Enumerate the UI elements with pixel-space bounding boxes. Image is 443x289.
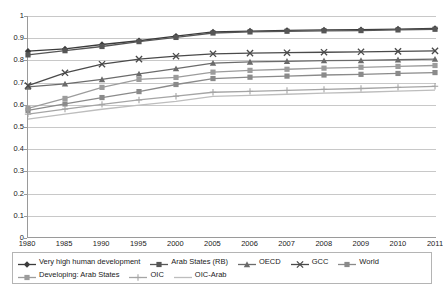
data-point-marker: [247, 75, 252, 80]
data-point-marker: [62, 96, 67, 101]
data-point-marker: [321, 86, 327, 92]
data-point-marker: [284, 67, 289, 72]
legend-item[interactable]: OECD: [237, 256, 281, 267]
x-tick-label: 2011: [427, 240, 443, 248]
data-point-marker: [136, 89, 141, 94]
legend-key-icon: [128, 269, 148, 280]
legend-label: Developing: Arab States: [39, 271, 119, 279]
legend-label: OIC-Arab: [195, 271, 227, 279]
data-point-marker: [395, 84, 401, 90]
data-point-marker: [210, 30, 215, 35]
legend-item[interactable]: OIC-Arab: [173, 269, 227, 280]
data-point-marker: [395, 71, 400, 76]
x-tick-label: 1995: [130, 240, 147, 248]
data-point-marker: [210, 70, 215, 75]
data-point-marker: [62, 48, 67, 53]
data-point-marker: [210, 76, 215, 81]
data-point-marker: [99, 95, 104, 100]
x-tick-label: 2007: [278, 240, 295, 248]
y-tick-label: 0.1: [14, 212, 24, 220]
series-4: [25, 48, 438, 89]
legend-key-icon: [290, 256, 310, 267]
legend-label: Arab States (RB): [171, 258, 228, 266]
legend-label: OECD: [259, 258, 281, 266]
legend-label: OIC: [150, 271, 163, 279]
x-tick-label: 2005: [204, 240, 221, 248]
data-point-marker: [62, 106, 68, 112]
x-tick-label: 2010: [390, 240, 407, 248]
data-point-marker: [247, 68, 252, 73]
x-tick-label: 1980: [19, 240, 36, 248]
data-point-marker: [173, 82, 178, 87]
hdi-line-chart: 10.90.80.70.60.50.40.30.20.10 1980198519…: [0, 0, 443, 289]
data-point-marker: [321, 72, 326, 77]
data-point-marker: [284, 87, 290, 93]
data-point-marker: [432, 70, 437, 75]
data-point-marker: [321, 28, 326, 33]
data-point-marker: [173, 93, 179, 99]
data-point-marker: [358, 28, 363, 33]
legend-item[interactable]: OIC: [128, 269, 163, 280]
data-point-marker: [99, 44, 104, 49]
legend-key-icon: [17, 269, 37, 280]
series-6: [25, 63, 437, 111]
legend-key-icon: [17, 256, 37, 267]
data-point-marker: [210, 89, 216, 95]
data-point-marker: [358, 85, 364, 91]
series-layer: [28, 16, 436, 237]
series-line: [28, 59, 435, 87]
legend-row-2: Developing: Arab StatesOICOIC-Arab: [17, 268, 427, 281]
data-point-marker: [247, 29, 252, 34]
data-point-marker: [136, 97, 142, 103]
legend-item[interactable]: GCC: [290, 256, 329, 267]
legend-label: World: [359, 258, 378, 266]
data-point-marker: [284, 29, 289, 34]
legend-item[interactable]: World: [337, 256, 378, 267]
y-axis: 10.90.80.70.60.50.40.30.20.10: [0, 16, 24, 238]
data-point-marker: [25, 106, 30, 111]
data-point-marker: [136, 77, 141, 82]
x-tick-label: 1985: [56, 240, 73, 248]
legend-label: GCC: [312, 258, 329, 266]
data-point-marker: [173, 75, 178, 80]
data-point-marker: [395, 27, 400, 32]
data-point-marker: [25, 52, 30, 57]
series-1: [25, 25, 438, 54]
legend-item[interactable]: Very high human development: [17, 256, 140, 267]
data-point-marker: [358, 72, 363, 77]
y-tick-label: 0.2: [14, 190, 24, 198]
data-point-marker: [99, 101, 105, 107]
y-tick-label: 0.4: [14, 145, 24, 153]
legend-item[interactable]: Developing: Arab States: [17, 269, 119, 280]
y-tick-label: 0.5: [14, 123, 24, 131]
data-point-marker: [173, 35, 178, 40]
legend-key-icon: [337, 256, 357, 267]
y-tick-label: 0.3: [14, 168, 24, 176]
data-point-marker: [62, 101, 67, 106]
data-point-marker: [432, 83, 438, 89]
y-tick-label: 0.9: [14, 34, 24, 42]
y-tick-label: 0.8: [14, 57, 24, 65]
series-8: [28, 90, 435, 119]
x-tick-label: 2000: [167, 240, 184, 248]
x-tick-label: 2009: [352, 240, 369, 248]
legend-item[interactable]: Arab States (RB): [149, 256, 228, 267]
legend-row-1: Very high human developmentArab States (…: [17, 255, 427, 268]
data-point-marker: [395, 64, 400, 69]
data-point-marker: [284, 74, 289, 79]
data-point-marker: [358, 65, 363, 70]
x-axis: 1980198519901995200020052006200720082009…: [27, 240, 436, 252]
series-line: [28, 66, 435, 109]
data-point-marker: [432, 27, 437, 32]
data-point-marker: [136, 39, 141, 44]
data-point-marker: [432, 63, 437, 68]
data-point-marker: [247, 88, 253, 94]
chart-legend: Very high human developmentArab States (…: [12, 252, 432, 284]
series-3: [25, 56, 438, 90]
legend-key-icon: [149, 256, 169, 267]
data-point-marker: [321, 66, 326, 71]
x-tick-label: 2006: [241, 240, 258, 248]
legend-label: Very high human development: [39, 258, 140, 266]
series-line: [28, 90, 435, 119]
plot-area: [27, 16, 436, 238]
